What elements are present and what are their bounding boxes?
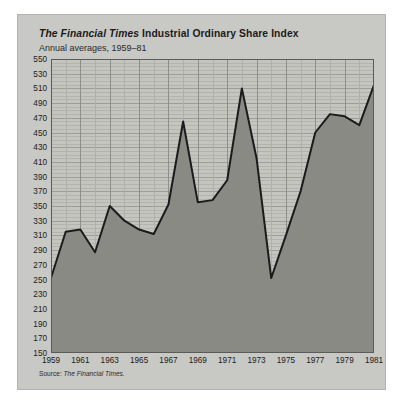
y-axis-tick-label: 530 [33,69,47,78]
source-name: The Financial Times. [64,370,125,377]
x-axis-tick-label: 1965 [130,356,148,365]
y-axis-tick-label: 270 [33,260,47,269]
x-axis-tick-label: 1961 [71,356,89,365]
y-axis-tick-label: 230 [33,290,47,299]
x-axis-tick-label: 1959 [42,356,60,365]
y-axis-tick-label: 370 [33,187,47,196]
y-axis-tick-label: 450 [33,128,47,137]
chart-subtitle: Annual averages, 1959–81 [39,43,147,53]
x-axis-tick-label: 1971 [218,356,236,365]
x-axis-tick-label: 1973 [247,356,265,365]
y-axis-tick-label: 210 [33,304,47,313]
chart-title-rest: Industrial Ordinary Share Index [139,28,298,39]
x-axis-tick-label: 1963 [101,356,119,365]
source-label: Source: [39,370,64,377]
y-axis-tick-label: 170 [33,334,47,343]
chart-card: The Financial Times Industrial Ordinary … [17,14,386,390]
y-axis-tick-label: 190 [33,319,47,328]
y-axis-labels: 1501701902102302502702903103303503703904… [18,59,47,353]
x-axis-tick-label: 1967 [159,356,177,365]
area-chart-svg [51,59,374,353]
chart-title-italic: The Financial Times [39,28,139,39]
y-axis-tick-label: 510 [33,84,47,93]
y-axis-tick-label: 290 [33,246,47,255]
y-axis-tick-label: 430 [33,143,47,152]
y-axis-tick-label: 550 [33,55,47,64]
x-axis-tick-label: 1975 [277,356,295,365]
y-axis-tick-label: 410 [33,157,47,166]
plot-area [51,59,374,353]
source-note: Source: The Financial Times. [39,370,125,377]
y-axis-tick-label: 470 [33,113,47,122]
x-axis-labels: 1959196119631965196719691971197319751977… [51,356,374,370]
y-axis-tick-label: 390 [33,172,47,181]
y-axis-tick-label: 310 [33,231,47,240]
x-axis-tick-label: 1969 [189,356,207,365]
chart-title: The Financial Times Industrial Ordinary … [39,28,299,39]
y-axis-tick-label: 330 [33,216,47,225]
y-axis-tick-label: 490 [33,99,47,108]
y-axis-tick-label: 250 [33,275,47,284]
x-axis-tick-label: 1981 [365,356,383,365]
y-axis-tick-label: 350 [33,202,47,211]
x-axis-tick-label: 1979 [336,356,354,365]
x-axis-tick-label: 1977 [306,356,324,365]
